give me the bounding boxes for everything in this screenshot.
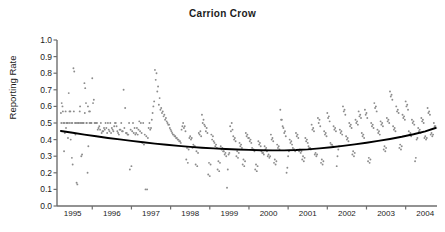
chart-figure: Carrion Crow Reporting Rate 1.00.90.80.7… [0, 0, 445, 232]
axes [54, 40, 438, 210]
scatter-points [60, 67, 437, 190]
plot-canvas [0, 0, 445, 232]
